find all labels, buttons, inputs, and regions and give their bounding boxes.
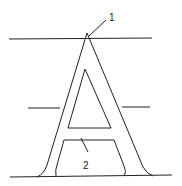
top-guide-line — [9, 38, 152, 39]
callout-2-label: 2 — [83, 160, 89, 171]
baseline — [10, 175, 172, 177]
callout-1-label: 1 — [109, 12, 115, 23]
letter-a-inner-legs — [56, 140, 126, 176]
letter-a-counter — [68, 69, 111, 128]
letter-a-diagram: 1 2 — [0, 0, 182, 186]
letter-a-outer — [37, 33, 153, 177]
callout-1-leader — [89, 20, 106, 36]
